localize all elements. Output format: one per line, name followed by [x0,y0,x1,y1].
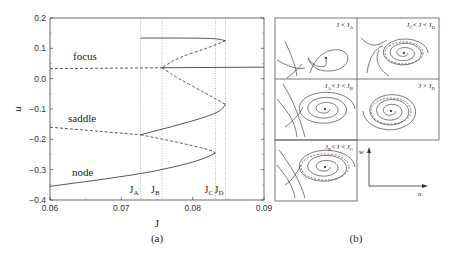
u-axis-arrow-icon [422,184,428,188]
series-saddle-upper-dashed [162,68,225,105]
panel-condition-p4: J > JD [419,82,436,91]
fixed-point-p5 [324,166,326,168]
separatrix-p2-b [367,46,383,73]
y-tick-label: −0.3 [29,165,46,175]
panel-label-a: (a) [151,232,164,245]
panel-condition-p3: JA< J < JB [325,82,354,91]
fixed-point-p2 [403,52,405,54]
spiral-p3 [299,92,355,123]
y-tick-label: −0.1 [29,104,46,114]
series-lower-cycle-stable [141,104,226,134]
panel-label-b: (b) [350,232,363,245]
x-axis-label: J [155,217,160,229]
y-tick-label: 0.1 [34,43,46,53]
fixed-point-p4 [390,110,392,112]
annotation-saddle: saddle [68,112,96,124]
marker-label-J_C: JC [204,184,213,197]
w-axis-label: w [359,148,364,156]
marker-label-J_A: JA [130,184,139,197]
trajectory-p1 [308,50,348,73]
annotation-focus: focus [73,50,97,62]
series-limit-cycle-upper-unstable [162,41,225,68]
separatrix-p2-a [361,38,387,45]
y-tick-label: 0.2 [34,13,46,23]
series-limit-cycle-upper-stable [141,38,226,41]
spiral-p2 [383,39,428,65]
spiral-p5 [299,150,355,181]
series-focus-unstable-left [50,68,162,69]
x-tick-label: 0.06 [42,203,59,213]
series-saddle-lower-dashed [141,135,216,153]
y-tick-label: −0.2 [29,134,46,144]
x-tick-label: 0.09 [256,203,273,213]
x-tick-label: 0.08 [184,203,201,213]
x-tick-label: 0.07 [113,203,130,213]
panel-condition-p2: JC< J < JD [407,21,436,30]
phase-portraits: J < JAJC< J < JDJA< J < JBJ > JDJB< J < … [275,18,439,245]
bifurcation-chart: 0.20.10.0−0.1−0.2−0.3−0.40.060.070.080.0… [11,13,273,245]
series-focus-stable-right [162,67,264,68]
separatrix-p1-b [277,60,305,69]
w-axis-arrow-icon [367,147,371,153]
separatrix-p2-c [377,50,389,76]
marker-label-J_B: JB [151,184,160,197]
annotation-node: node [72,166,94,178]
u-axis-label: u [418,190,422,198]
marker-label-J_D: JD [214,184,223,197]
y-axis-label: u [11,106,23,112]
y-tick-label: 0.0 [34,74,46,84]
fixed-point-p1 [325,57,327,59]
separatrix-p5-a [279,150,305,198]
series-saddle-left-dashed [50,127,141,135]
panel-condition-p1: J < JA [337,21,354,30]
figure: 0.20.10.0−0.1−0.2−0.3−0.40.060.070.080.0… [0,0,452,254]
fixed-point-p3 [324,108,326,110]
